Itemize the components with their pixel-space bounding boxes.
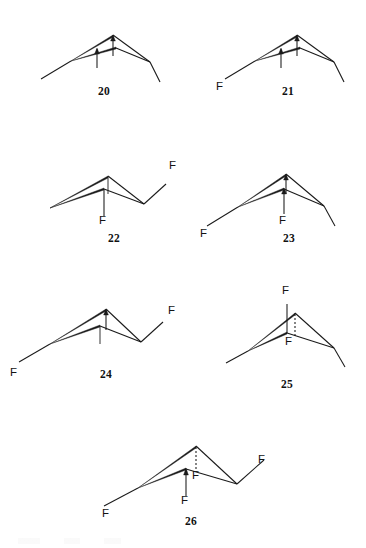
bond-left-terminal: [41, 61, 71, 79]
structure-21: [222, 4, 362, 86]
structure-20-number: 20: [98, 85, 110, 97]
structure-26-number: 26: [185, 515, 197, 527]
bond-left-upper: [138, 446, 196, 488]
bond-left-lower: [255, 47, 300, 61]
bond-apex2-right: [287, 333, 334, 348]
structure-22-fluorine-right: F: [169, 160, 176, 172]
structure-21-skeleton: [222, 4, 362, 86]
structure-21-fluorine-left: F: [216, 81, 223, 93]
structure-24-number: 24: [100, 368, 112, 380]
structure-22-number: 22: [108, 232, 120, 244]
bond-left-upper: [50, 176, 108, 208]
bond-left-terminal: [19, 344, 50, 362]
structure-21-number: 21: [282, 85, 294, 97]
bond-left-terminal: [226, 351, 248, 363]
bond-apex-right: [295, 313, 334, 348]
structure-20-skeleton: [38, 4, 178, 86]
bond-right-terminal: [144, 184, 166, 204]
bond-right-terminal: [334, 348, 345, 367]
apex2-methyl-head: [95, 48, 100, 54]
bond-left-lower: [50, 325, 100, 344]
structure-24: [14, 292, 184, 374]
bond-left-upper: [71, 35, 113, 61]
structure-25-number: 25: [281, 378, 293, 390]
structure-24-skeleton: [14, 292, 184, 374]
bond-apex2-right: [284, 189, 324, 206]
structure-26-fluorine-right: F: [258, 454, 265, 466]
bond-left-terminal: [104, 488, 138, 506]
structure-22-fluorine-center: F: [99, 215, 106, 227]
bond-apex2-right: [104, 189, 144, 204]
cropped-caption-remnant: [18, 538, 138, 544]
bond-right-terminal: [141, 322, 163, 342]
structure-24-fluorine-right: F: [168, 305, 175, 317]
structure-26-fluorine-lower-center: F: [181, 495, 188, 507]
bond-left-terminal: [207, 207, 238, 226]
bond-left-lower: [50, 188, 104, 208]
structure-25: [205, 294, 355, 376]
structure-26: [94, 434, 284, 516]
bond-apex-right: [108, 176, 144, 204]
structure-23-fluorine-left: F: [200, 228, 207, 240]
bond-left-lower: [71, 47, 116, 61]
structure-26-fluorine-upper-center: F: [192, 470, 199, 482]
structure-25-skeleton: [205, 294, 355, 376]
bond-right-terminal: [334, 62, 344, 82]
bond-right-terminal: [324, 206, 335, 226]
bond-left-lower: [238, 188, 284, 207]
bond-left-lower: [248, 332, 287, 351]
structure-20: [38, 4, 178, 86]
bond-left-terminal: [225, 61, 255, 79]
structure-23-number: 23: [283, 232, 295, 244]
bond-right-terminal: [150, 62, 160, 82]
structure-25-fluorine-bottom: F: [285, 336, 292, 348]
structure-26-fluorine-left: F: [102, 508, 109, 520]
bond-left-upper: [255, 35, 297, 61]
structure-24-fluorine-left: F: [10, 367, 17, 379]
structure-23-fluorine-center: F: [279, 215, 286, 227]
structure-26-skeleton: [94, 434, 284, 516]
apex2-methyl-head: [279, 48, 284, 54]
bond-apex-right: [106, 309, 141, 342]
bond-apex-right: [286, 174, 324, 206]
structure-25-fluorine-top: F: [282, 285, 289, 297]
figure-canvas: 20 F 21: [0, 0, 366, 548]
